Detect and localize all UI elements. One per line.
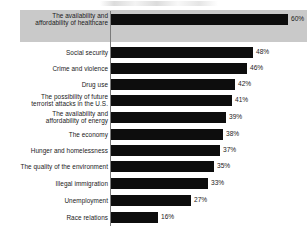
bar-row: Unemployment27% xyxy=(0,193,307,209)
bar xyxy=(111,145,220,156)
bar-value-label: 35% xyxy=(217,162,230,170)
bar-value-label: 39% xyxy=(229,113,242,121)
bar-category-label: The possibility of future terrorist atta… xyxy=(4,93,108,108)
bar-row: The possibility of future terrorist atta… xyxy=(0,93,307,109)
bar-category-label: The availability and affordability of he… xyxy=(4,12,108,27)
bar-row: The availability and affordability of en… xyxy=(0,110,307,126)
bar xyxy=(111,47,253,58)
bar xyxy=(111,178,208,189)
bar-chart: The availability and affordability of he… xyxy=(0,0,307,239)
bar xyxy=(111,14,288,25)
bar-value-label: 42% xyxy=(238,80,251,88)
bar-value-label: 37% xyxy=(223,146,236,154)
bar xyxy=(111,129,223,140)
bar xyxy=(111,195,191,206)
bar-row: Drug use42% xyxy=(0,77,307,93)
bar-row: Hunger and homelessness37% xyxy=(0,143,307,159)
bar xyxy=(111,79,235,90)
bar-value-label: 33% xyxy=(211,179,224,187)
bar xyxy=(111,95,232,106)
bar-row: The economy38% xyxy=(0,127,307,143)
bar xyxy=(111,112,226,123)
bar-row: Social security48% xyxy=(0,45,307,61)
bar xyxy=(111,63,247,74)
bar-row: The quality of the environment35% xyxy=(0,159,307,175)
bar-value-label: 41% xyxy=(235,96,248,104)
bar xyxy=(111,212,158,223)
bar-value-label: 48% xyxy=(256,48,269,56)
bar-value-label: 38% xyxy=(226,130,239,138)
bar-value-label: 60% xyxy=(291,15,304,23)
bar-category-label: Hunger and homelessness xyxy=(4,147,108,154)
bar-category-label: Crime and violence xyxy=(4,65,108,72)
bar-value-label: 16% xyxy=(161,213,174,221)
bar-category-label: The quality of the environment xyxy=(4,163,108,170)
bar-category-label: The economy xyxy=(4,131,108,138)
bar-row: Illegal immigration33% xyxy=(0,176,307,192)
bar-row: Race relations16% xyxy=(0,210,307,226)
bar-category-label: Drug use xyxy=(4,81,108,88)
bar-category-label: Unemployment xyxy=(4,197,108,204)
bar-category-label: Social security xyxy=(4,49,108,56)
bar-value-label: 46% xyxy=(250,64,263,72)
bar-category-label: Illegal immigration xyxy=(4,180,108,187)
bar-category-label: Race relations xyxy=(4,214,108,221)
bar-category-label: The availability and affordability of en… xyxy=(4,110,108,125)
bar-value-label: 27% xyxy=(194,196,207,204)
bar-rows: The availability and affordability of he… xyxy=(0,0,307,239)
bar xyxy=(111,161,214,172)
bar-row: The availability and affordability of he… xyxy=(0,12,307,28)
bar-row: Crime and violence46% xyxy=(0,61,307,77)
